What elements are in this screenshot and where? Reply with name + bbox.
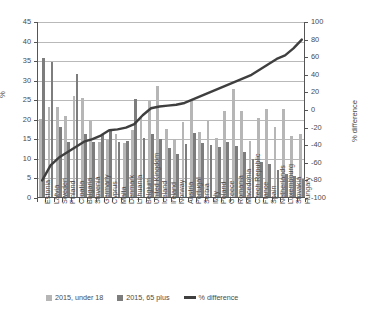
y-tick-mark-right	[305, 163, 308, 164]
legend-swatch-line	[184, 296, 196, 299]
chart-legend: 2015, under 182015, 65 plus% difference	[46, 293, 238, 302]
y-tick-mark-left	[34, 100, 37, 101]
x-axis-label: Spain	[270, 186, 277, 204]
x-axis-label: Cyprus	[111, 181, 118, 204]
x-axis-label: Malta	[120, 186, 127, 204]
y-tick-mark-right	[305, 22, 308, 23]
y-tick-label-right: -60	[311, 159, 341, 166]
x-axis-label: Finland	[69, 180, 76, 204]
y-tick-label-right: -20	[311, 124, 341, 131]
y-tick-label-right: 60	[311, 53, 341, 60]
y-tick-mark-right	[305, 92, 308, 93]
x-axis-label: Greece	[228, 180, 235, 204]
y-tick-label-left: 35	[5, 57, 31, 64]
x-axis-label: Germany	[103, 174, 110, 204]
y-tick-label-right: 0	[311, 106, 341, 113]
x-axis-label: Croatia	[78, 181, 85, 204]
legend-swatch-p65	[117, 295, 123, 301]
x-axis-label: Norway	[178, 180, 185, 204]
y-tick-mark-left	[34, 42, 37, 43]
plot-area	[37, 22, 305, 198]
x-tick-mark	[37, 198, 38, 202]
y-tick-mark-left	[34, 178, 37, 179]
y-tick-mark-right	[305, 57, 308, 58]
x-axis-label: Romania	[237, 175, 244, 204]
y-tick-label-left: 25	[5, 96, 31, 103]
y-tick-mark-right	[305, 128, 308, 129]
y-tick-label-left: 20	[5, 116, 31, 123]
y-tick-mark-right	[305, 110, 308, 111]
y-tick-label-right: 100	[311, 18, 341, 25]
x-axis-label: Slovenia	[94, 176, 101, 204]
y-tick-label-right: 40	[311, 71, 341, 78]
y-tick-mark-left	[34, 139, 37, 140]
x-axis-label: Slovakia	[295, 177, 302, 204]
x-axis-label: Czech Republic	[254, 154, 261, 204]
y-tick-mark-left	[34, 120, 37, 121]
y-tick-label-left: 40	[5, 38, 31, 45]
y-tick-mark-left	[34, 61, 37, 62]
y-tick-label-right: 80	[311, 36, 341, 43]
percent-difference-line	[42, 40, 302, 181]
legend-label: 2015, 65 plus	[126, 293, 169, 302]
x-axis-label: Netherlands	[279, 165, 286, 204]
y-axis-title-right: % difference	[350, 100, 359, 142]
y-tick-label-right: -100	[311, 194, 341, 201]
x-axis-label: Serbia	[203, 183, 210, 204]
y-tick-mark-right	[305, 145, 308, 146]
y-tick-label-right: -40	[311, 141, 341, 148]
line-series-layer	[38, 22, 306, 198]
y-tick-mark-right	[305, 40, 308, 41]
y-tick-label-left: 5	[5, 174, 31, 181]
x-axis-label: Belgium	[145, 178, 152, 204]
y-tick-mark-right	[305, 75, 308, 76]
chart-container: % % difference 051015202530354045 -100-8…	[0, 0, 380, 320]
y-tick-label-right: -80	[311, 176, 341, 183]
x-axis-label: Latvia	[53, 185, 60, 204]
legend-item[interactable]: 2015, under 18	[46, 293, 103, 302]
y-tick-mark-left	[34, 159, 37, 160]
x-axis-label: Austria	[187, 182, 194, 204]
legend-item[interactable]: 2015, 65 plus	[117, 293, 169, 302]
y-tick-label-left: 10	[5, 155, 31, 162]
x-axis-label: Estonia	[44, 180, 51, 204]
legend-label: 2015, under 18	[55, 293, 103, 302]
y-tick-label-right: 20	[311, 88, 341, 95]
x-axis-label: Hungary	[304, 177, 311, 204]
y-tick-label-left: 45	[5, 18, 31, 25]
y-tick-label-left: 15	[5, 135, 31, 142]
legend-item[interactable]: % difference	[184, 293, 239, 302]
x-axis-label: Ireland	[170, 182, 177, 204]
legend-swatch-u18	[46, 295, 52, 301]
x-axis-label: Macedonia	[245, 169, 252, 204]
y-tick-label-left: 30	[5, 77, 31, 84]
x-axis-label: Lithuania	[136, 175, 143, 204]
x-axis-label: Italy	[212, 191, 219, 204]
y-tick-mark-left	[34, 81, 37, 82]
legend-label: % difference	[199, 293, 239, 302]
y-tick-mark-left	[34, 22, 37, 23]
x-axis-label: Iceland	[161, 181, 168, 204]
y-tick-label-left: 0	[5, 194, 31, 201]
